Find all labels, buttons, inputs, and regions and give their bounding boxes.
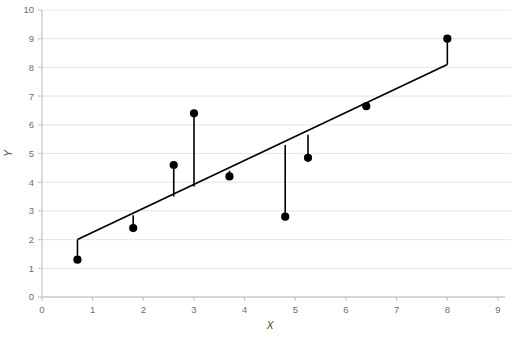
x-tick-label: 8 (445, 304, 450, 315)
data-point (281, 213, 289, 221)
y-tick-label: 1 (29, 263, 34, 274)
x-axis-title: X (266, 320, 274, 331)
data-point (129, 224, 137, 232)
x-tick-label: 6 (343, 304, 348, 315)
x-tick-label: 7 (394, 304, 399, 315)
y-tick-label: 6 (29, 119, 34, 130)
y-tick-label: 7 (29, 91, 34, 102)
regression-line (77, 65, 447, 240)
data-point (170, 161, 178, 169)
data-point (73, 256, 81, 264)
x-tick-label: 4 (242, 304, 247, 315)
x-tick-label: 0 (39, 304, 44, 315)
y-tick-label: 5 (29, 148, 34, 159)
data-point (225, 172, 233, 180)
y-tick-label: 9 (29, 33, 34, 44)
data-point (362, 102, 370, 110)
y-tick-label: 3 (29, 205, 34, 216)
y-axis-title: Y (3, 149, 14, 157)
regression-residual-chart: 0123456789100123456789XY (0, 0, 511, 337)
data-point (190, 109, 198, 117)
y-tick-label: 0 (29, 291, 34, 302)
y-tick-label: 8 (29, 62, 34, 73)
x-tick-label: 1 (90, 304, 95, 315)
data-point (443, 35, 451, 43)
y-tick-label: 4 (29, 177, 34, 188)
data-point (304, 154, 312, 162)
x-tick-label: 3 (191, 304, 196, 315)
y-tick-label: 2 (29, 234, 34, 245)
y-tick-label: 10 (23, 4, 34, 15)
x-tick-label: 5 (293, 304, 298, 315)
plot-area: 0123456789100123456789XY (0, 0, 511, 337)
x-tick-label: 2 (141, 304, 146, 315)
x-tick-label: 9 (495, 304, 500, 315)
